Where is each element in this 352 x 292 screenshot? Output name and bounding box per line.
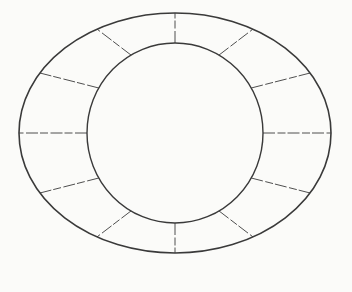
spoke-line (219, 211, 253, 237)
spoke-line (97, 29, 131, 55)
spoke-line (40, 73, 99, 88)
wheel-diagram (0, 0, 352, 292)
spoke-line (97, 211, 131, 237)
spoke-line (219, 29, 253, 55)
spoke-lines (19, 13, 331, 253)
spoke-line (40, 178, 99, 193)
annulus-diagram (0, 0, 352, 292)
spoke-line (251, 73, 310, 88)
spoke-line (251, 178, 310, 193)
inner-ellipse (87, 43, 263, 223)
